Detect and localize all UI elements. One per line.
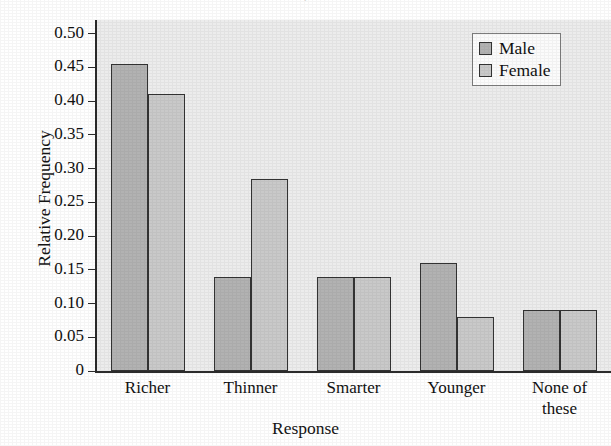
x-category-label-line2: these	[508, 398, 611, 419]
bar-male-younger	[420, 263, 457, 371]
bar-male-thinner	[214, 277, 251, 372]
y-tick-mark	[88, 303, 96, 304]
y-tick-label: 0.15	[0, 259, 84, 279]
y-tick-mark	[88, 202, 96, 203]
y-tick-label: 0.50	[0, 23, 84, 43]
male-swatch-icon	[479, 42, 492, 55]
y-axis-line	[95, 20, 97, 373]
bar-male-smarter	[317, 277, 354, 372]
y-tick-mark	[88, 371, 96, 372]
bar-male-richer	[111, 64, 148, 371]
y-tick-label: 0	[0, 360, 84, 380]
x-category-richer: Richer	[96, 377, 199, 398]
y-tick-label: 0.05	[0, 326, 84, 346]
bar-male-none-of-these	[523, 310, 560, 371]
y-tick-label: 0.20	[0, 225, 84, 245]
y-tick-label: 0.25	[0, 191, 84, 211]
y-tick-label: 0.10	[0, 293, 84, 313]
x-category-label-line1: None of	[508, 377, 611, 398]
chart-title-text: •	[302, 0, 309, 7]
x-category-younger: Younger	[405, 377, 508, 398]
y-tick-mark	[88, 134, 96, 135]
bar-female-younger	[457, 317, 494, 371]
x-category-thinner: Thinner	[199, 377, 302, 398]
x-axis-title: Response	[0, 418, 611, 439]
bar-chart-figure: • Relative Frequency 00.050.100.150.200.…	[0, 0, 611, 446]
x-category-label-line1: Thinner	[199, 377, 302, 398]
y-tick-mark	[88, 269, 96, 270]
x-category-none-of-these: None ofthese	[508, 377, 611, 419]
legend-label-male: Male	[499, 39, 535, 57]
legend-label-female: Female	[499, 61, 551, 79]
y-tick-label: 0.35	[0, 124, 84, 144]
chart-title-cropped: •	[0, 0, 611, 14]
bar-female-richer	[148, 94, 185, 371]
x-category-label-line1: Smarter	[302, 377, 405, 398]
y-tick-mark	[88, 168, 96, 169]
x-axis-line	[95, 371, 611, 373]
female-swatch-icon	[479, 64, 492, 77]
y-tick-label: 0.30	[0, 158, 84, 178]
bar-female-smarter	[354, 277, 391, 372]
y-tick-label: 0.45	[0, 56, 84, 76]
y-tick-mark	[88, 337, 96, 338]
bar-female-thinner	[251, 179, 288, 371]
x-category-smarter: Smarter	[302, 377, 405, 398]
bar-female-none-of-these	[560, 310, 597, 371]
y-tick-mark	[88, 33, 96, 34]
y-tick-label: 0.40	[0, 90, 84, 110]
legend-item-male: Male	[479, 37, 551, 59]
y-tick-mark	[88, 67, 96, 68]
x-category-label-line1: Younger	[405, 377, 508, 398]
y-tick-mark	[88, 236, 96, 237]
legend-item-female: Female	[479, 59, 551, 81]
chart-legend: Male Female	[472, 33, 561, 86]
y-tick-mark	[88, 101, 96, 102]
x-category-label-line1: Richer	[96, 377, 199, 398]
